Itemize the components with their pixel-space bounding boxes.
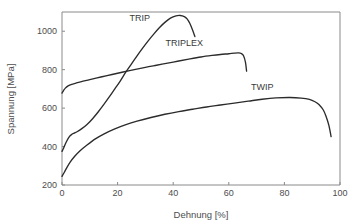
x-tick-label: 20 [113,188,123,198]
y-tick-label: 400 [42,142,57,152]
y-axis-title: Spannung [MPa] [5,64,16,135]
stress-strain-chart: 0204060801002004006008001000 TRIPTRIPLEX… [0,0,358,223]
x-tick-label: 40 [168,188,178,198]
y-tick-label: 800 [42,65,57,75]
y-tick-label: 1000 [37,26,57,36]
x-tick-label: 80 [279,188,289,198]
y-tick-label: 600 [42,103,57,113]
x-tick-label: 60 [224,188,234,198]
y-tick-label: 200 [42,180,57,190]
series-label-twip: TWIP [251,82,274,92]
x-tick-label: 100 [332,188,347,198]
series-label-triplex: TRIPLEX [166,38,204,48]
x-axis-title: Dehnung [%] [174,209,229,220]
chart-figure: 0204060801002004006008001000 TRIPTRIPLEX… [0,0,358,223]
series-label-trip: TRIP [130,13,151,23]
x-tick-label: 0 [59,188,64,198]
